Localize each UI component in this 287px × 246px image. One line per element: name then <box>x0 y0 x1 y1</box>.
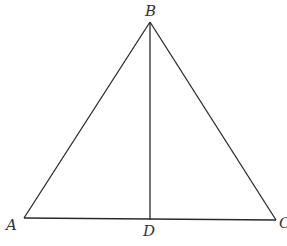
vertex-label-b: B <box>145 4 156 19</box>
triangle-diagram <box>0 0 287 246</box>
segment-bc <box>150 22 276 220</box>
segment-ab <box>24 22 150 218</box>
vertex-label-c: C <box>279 216 287 231</box>
point-label-d: D <box>143 224 155 239</box>
vertex-label-a: A <box>6 218 17 233</box>
